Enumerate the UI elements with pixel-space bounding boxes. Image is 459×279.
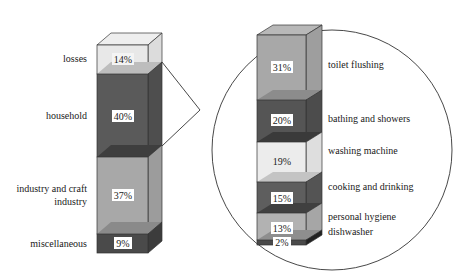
pct-washing: 19% [273,156,291,167]
segment-household [97,62,162,157]
left-stacked-bar [97,33,162,253]
pct-dishwasher: 2% [275,237,288,248]
label-household: household [46,110,87,121]
pct-losses: 14% [114,54,132,65]
pct-hygiene: 13% [273,223,291,234]
label-bathing: bathing and showers [328,113,410,124]
connector-line-bottom [162,110,200,146]
chart-svg: 14% 40% 37% 9% losses household industry… [0,0,459,279]
pct-household: 40% [114,111,132,122]
label-industry-line1: industry and craft [16,183,87,194]
label-personal-hygiene: personal hygiene [328,211,397,222]
pct-industry: 37% [114,190,132,201]
pct-toilet: 31% [273,62,291,73]
chart-canvas: 14% 40% 37% 9% losses household industry… [0,0,459,279]
label-miscellaneous: miscellaneous [30,238,87,249]
pct-bathing: 20% [273,115,291,126]
pct-cooking: 15% [273,193,291,204]
right-stacked-bar [257,25,322,245]
label-toilet-flushing: toilet flushing [328,59,384,70]
pct-miscellaneous: 9% [116,238,129,249]
label-cooking: cooking and drinking [328,181,414,192]
label-washing-machine: washing machine [328,145,398,156]
label-industry-line2: industry [54,196,87,207]
connector-line-top [162,62,200,110]
label-dishwasher: dishwasher [328,226,374,237]
label-losses: losses [63,53,87,64]
